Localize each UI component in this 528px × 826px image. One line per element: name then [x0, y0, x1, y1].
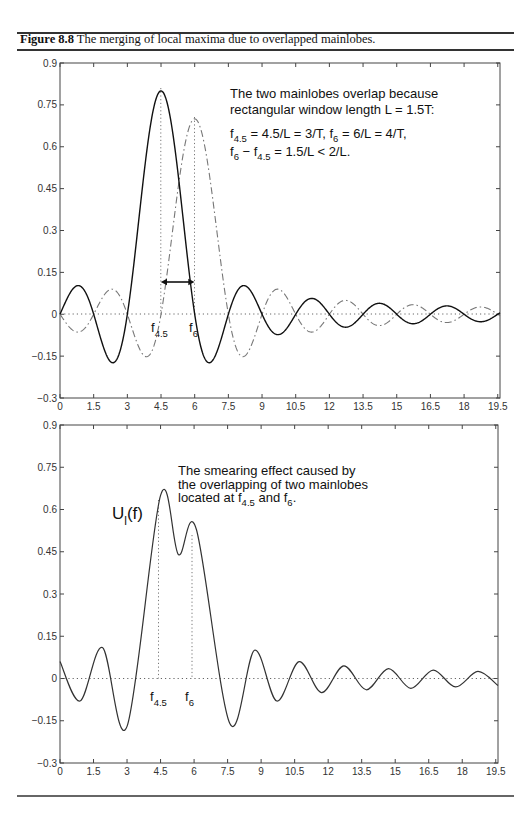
- figure-canvas: 01.534.567.5910.51213.51516.51819.5−0.3−…: [0, 0, 528, 826]
- top-annotation-eq1: f4.5 = 4.5/L = 3/T, f6 = 6/L = 4/T,: [230, 126, 407, 144]
- x-tick-label: 4.5: [154, 401, 168, 412]
- x-tick-label: 13.5: [353, 401, 373, 412]
- x-tick-label: 15: [391, 401, 403, 412]
- x-tick-label: 6: [192, 401, 198, 412]
- y-tick-label: −0.15: [32, 351, 58, 362]
- x-tick-label: 18: [457, 766, 469, 777]
- bottom-marker-f45: f4.5: [150, 689, 167, 708]
- x-tick-label: 0: [57, 401, 63, 412]
- top-plot: 01.534.567.5910.51213.51516.51819.5−0.3−…: [32, 58, 508, 413]
- top-annotation-line2: rectangular window length L = 1.5T:: [230, 102, 434, 117]
- spacing-double-arrow: [161, 279, 195, 285]
- y-tick-label: 0.9: [43, 58, 57, 69]
- x-tick-label: 1.5: [87, 766, 101, 777]
- y-tick-label: 0.15: [38, 631, 58, 642]
- x-tick-label: 18: [459, 401, 471, 412]
- y-tick-label: 0.15: [38, 267, 58, 278]
- x-tick-label: 7.5: [221, 766, 235, 777]
- x-tick-label: 10.5: [286, 401, 306, 412]
- y-tick-label: −0.3: [37, 393, 57, 404]
- x-tick-label: 9: [258, 766, 264, 777]
- x-tick-label: 19.5: [486, 766, 506, 777]
- y-tick-label: 0.6: [43, 141, 57, 152]
- x-tick-label: 10.5: [285, 766, 305, 777]
- y-tick-label: −0.15: [32, 715, 58, 726]
- x-tick-label: 16.5: [419, 766, 439, 777]
- x-tick-label: 19.5: [488, 401, 508, 412]
- bottom-marker-f6: f6: [185, 689, 194, 708]
- x-tick-label: 0: [57, 766, 63, 777]
- x-tick-label: 3: [124, 766, 130, 777]
- top-annotation-eq2: f6 − f4.5 = 1.5/L < 2/L.: [230, 144, 350, 162]
- y-tick-label: −0.3: [37, 758, 57, 769]
- x-tick-label: 16.5: [421, 401, 441, 412]
- x-tick-label: 12: [324, 401, 336, 412]
- y-tick-label: 0: [51, 309, 57, 320]
- x-tick-label: 7.5: [221, 401, 235, 412]
- y-tick-label: 0: [51, 673, 57, 684]
- x-tick-label: 6: [191, 766, 197, 777]
- x-tick-label: 4.5: [154, 766, 168, 777]
- y-tick-label: 0.45: [38, 546, 58, 557]
- x-tick-label: 3: [125, 401, 131, 412]
- bottom-annotation-line1: The smearing effect caused by: [178, 463, 356, 478]
- y-tick-label: 0.9: [43, 420, 57, 431]
- top-marker-f45: f4.5: [151, 320, 168, 339]
- x-tick-label: 12: [323, 766, 335, 777]
- y-tick-label: 0.45: [38, 183, 58, 194]
- y-tick-label: 0.3: [43, 589, 57, 600]
- x-tick-label: 15: [390, 766, 402, 777]
- y-tick-label: 0.6: [43, 504, 57, 515]
- x-tick-label: 9: [259, 401, 265, 412]
- y-tick-label: 0.75: [38, 99, 58, 110]
- x-tick-label: 13.5: [352, 766, 372, 777]
- bottom-annotation-line3: located at f4.5 and f6.: [178, 490, 296, 508]
- y-tick-label: 0.75: [38, 462, 58, 473]
- x-tick-label: 1.5: [87, 401, 101, 412]
- top-annotation-line1: The two mainlobes overlap because: [230, 86, 438, 101]
- ul-curve-label: Ul(f): [112, 504, 143, 528]
- bottom-plot: 01.534.567.5910.51213.51516.51819.5−0.3−…: [32, 420, 506, 778]
- y-tick-label: 0.3: [43, 225, 57, 236]
